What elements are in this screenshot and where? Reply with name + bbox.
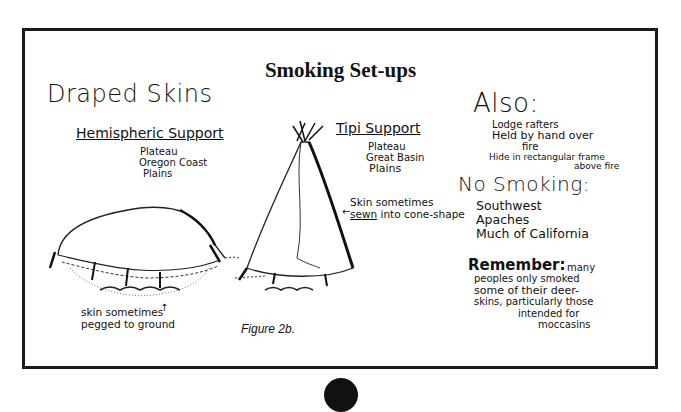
also-list: Lodge rafters Held by hand over fire Hid… <box>492 119 619 172</box>
remember-text: peoples only smoked some of their deer- … <box>474 273 593 331</box>
hemispheric-lodge-drawing <box>40 190 240 300</box>
remember-line: many <box>567 262 595 273</box>
region: Plateau <box>140 146 207 157</box>
note-line: pegged to ground <box>81 318 175 330</box>
hemispheric-support-label: Hemispheric Support <box>76 125 223 141</box>
remember-line: some of their deer- <box>474 285 593 297</box>
region: Plains <box>143 168 207 179</box>
no-smoking-list: Southwest Apaches Much of California <box>476 199 589 241</box>
no-smoking-item: Apaches <box>476 213 589 227</box>
region: Plateau <box>368 141 424 152</box>
also-item: fire <box>492 141 619 152</box>
no-smoking-heading: No Smoking: <box>458 172 590 196</box>
note-line: Skin sometimes <box>350 196 465 208</box>
note-rest: into cone-shape <box>381 208 465 220</box>
arrow-left-icon: ← <box>342 206 350 217</box>
arrow-up-icon: ↑ <box>160 302 168 313</box>
remember-heading: Remember: <box>468 256 565 274</box>
figure-caption: Figure 2b. <box>241 322 295 336</box>
draped-skins-heading: Draped Skins <box>47 80 212 108</box>
remember-line: peoples only smoked <box>474 273 593 285</box>
no-smoking-item: Much of California <box>476 227 589 241</box>
note-sewn: sewn <box>350 208 377 220</box>
tipi-note: Skin sometimes sewn into cone-shape <box>350 196 465 220</box>
also-item: Held by hand over <box>492 130 619 141</box>
remember-line: skins, particularly those <box>474 296 593 308</box>
region: Oregon Coast <box>139 157 207 168</box>
remember-line: moccasins <box>474 319 593 331</box>
tipi-regions: Plateau Great Basin Plains <box>366 141 424 174</box>
hemispheric-regions: Plateau Oregon Coast Plains <box>140 146 207 179</box>
region: Plains <box>369 163 424 174</box>
also-heading: Also: <box>473 88 539 118</box>
tipi-support-label: Tipi Support <box>336 120 421 136</box>
page-tab-shape <box>324 378 358 412</box>
remember-line: intended for <box>474 308 593 320</box>
tipi-drawing <box>235 118 355 303</box>
note-line: sewn into cone-shape <box>350 208 465 220</box>
no-smoking-item: Southwest <box>476 199 589 213</box>
